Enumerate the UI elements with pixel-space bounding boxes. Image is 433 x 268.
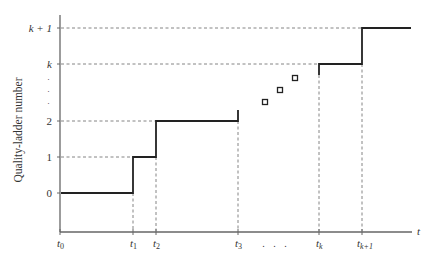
step-line-upper (319, 28, 411, 75)
intermediate-step-markers (263, 76, 298, 105)
x-axis-title: t (417, 225, 421, 237)
quality-ladder-chart: k + 1 k · · · 2 1 0 Quality-ladder numbe… (0, 0, 433, 268)
y-ellipsis-dot: · (47, 74, 50, 84)
y-ellipsis-dot: · (47, 98, 50, 108)
x-label-t2: t2 (153, 237, 160, 251)
y-label-1: 1 (47, 151, 53, 163)
y-ellipsis-dot: · (47, 86, 50, 96)
y-axis-title: Quality-ladder number (12, 77, 25, 182)
square-marker (263, 100, 268, 105)
y-label-0: 0 (47, 187, 53, 199)
y-label-k-plus-1: k + 1 (29, 22, 52, 34)
square-marker (293, 76, 298, 81)
y-label-k: k (47, 58, 53, 70)
vertical-guides (133, 64, 362, 231)
y-label-2: 2 (47, 115, 53, 127)
x-label-tk-plus-1: tk+1 (357, 237, 373, 251)
x-label-tk: tk (316, 237, 323, 251)
x-label-t1: t1 (130, 237, 137, 251)
step-line-lower (61, 110, 238, 193)
x-label-t0: t0 (57, 237, 64, 251)
square-marker (278, 88, 283, 93)
horizontal-guides (61, 28, 362, 157)
x-label-t3: t3 (235, 237, 242, 251)
x-ellipsis: . . . (262, 238, 290, 249)
